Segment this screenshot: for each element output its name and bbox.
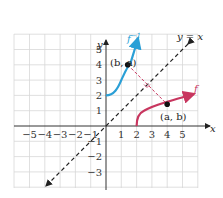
svg-text:5: 5 <box>96 44 102 55</box>
svg-text:1: 1 <box>118 129 124 140</box>
svg-text:2: 2 <box>133 129 139 140</box>
svg-text:4: 4 <box>164 129 170 140</box>
x-axis-label: x <box>210 123 216 134</box>
label-b-a: (b, a) <box>110 57 137 68</box>
svg-text:−3: −3 <box>53 129 68 140</box>
label-a-b: (a, b) <box>160 111 187 122</box>
svg-text:3: 3 <box>96 75 102 86</box>
svg-text:1: 1 <box>96 105 102 116</box>
svg-text:−2: −2 <box>68 129 83 140</box>
label-f: f <box>193 83 200 94</box>
svg-text:2: 2 <box>96 90 102 101</box>
svg-text:−1: −1 <box>87 136 102 147</box>
svg-text:4: 4 <box>96 59 102 70</box>
svg-text:3: 3 <box>149 129 155 140</box>
point-a-b <box>164 102 170 108</box>
x-tick-labels: −5 −4 −3 −2 −1 1 2 3 4 5 <box>22 129 186 140</box>
svg-text:5: 5 <box>179 129 185 140</box>
label-f-inverse: f−1 <box>126 32 141 44</box>
label-y-equals-x: y = x <box>176 31 203 42</box>
svg-text:−5: −5 <box>22 129 37 140</box>
svg-text:−3: −3 <box>87 167 102 178</box>
graph: x y −5 −4 −3 −2 −1 1 2 3 4 5 5 4 3 2 1 −… <box>0 0 223 198</box>
svg-text:−2: −2 <box>87 151 102 162</box>
svg-text:−4: −4 <box>37 129 52 140</box>
